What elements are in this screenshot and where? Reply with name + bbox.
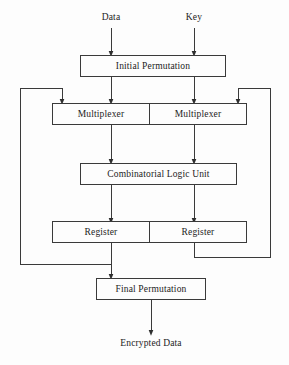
block-register-row: Register Register [52,221,247,243]
block-multiplexer-right[interactable]: Multiplexer [149,104,246,124]
block-register-left[interactable]: Register [53,222,149,242]
block-initial-permutation[interactable]: Initial Permutation [80,55,226,77]
input-label-data: Data [102,12,121,22]
input-label-key: Key [186,12,202,22]
block-register-right[interactable]: Register [149,222,246,242]
block-final-permutation[interactable]: Final Permutation [96,278,206,300]
block-diagram: Data Key Initial Permutation Multiplexer… [0,0,289,365]
block-combinatorial-logic-unit[interactable]: Combinatorial Logic Unit [80,163,237,185]
block-multiplexer-left[interactable]: Multiplexer [53,104,149,124]
output-label-encrypted-data: Encrypted Data [120,338,181,348]
block-multiplexer-row: Multiplexer Multiplexer [52,103,247,125]
